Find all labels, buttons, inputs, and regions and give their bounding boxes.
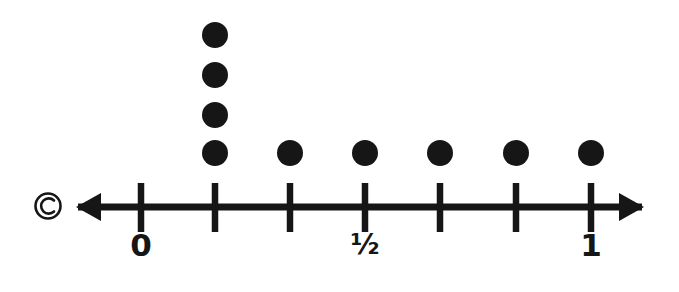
data-dot	[202, 22, 228, 48]
data-dot	[277, 140, 303, 166]
data-dots-layer	[202, 22, 604, 166]
axis-label-half: ½	[343, 231, 387, 259]
axis-right-arrowhead	[619, 193, 644, 221]
axis-left-arrowhead	[76, 193, 101, 221]
data-dot	[202, 140, 228, 166]
data-dot	[352, 140, 378, 166]
axis-label-1: 1	[571, 230, 611, 261]
data-dot	[427, 140, 453, 166]
data-dot	[578, 140, 604, 166]
copyright-icon	[36, 194, 61, 219]
data-dot	[202, 102, 228, 128]
figure-canvas: 0 ½ 1	[0, 0, 679, 292]
data-dot	[202, 62, 228, 88]
axis-label-0: 0	[121, 230, 161, 261]
data-dot	[503, 140, 529, 166]
